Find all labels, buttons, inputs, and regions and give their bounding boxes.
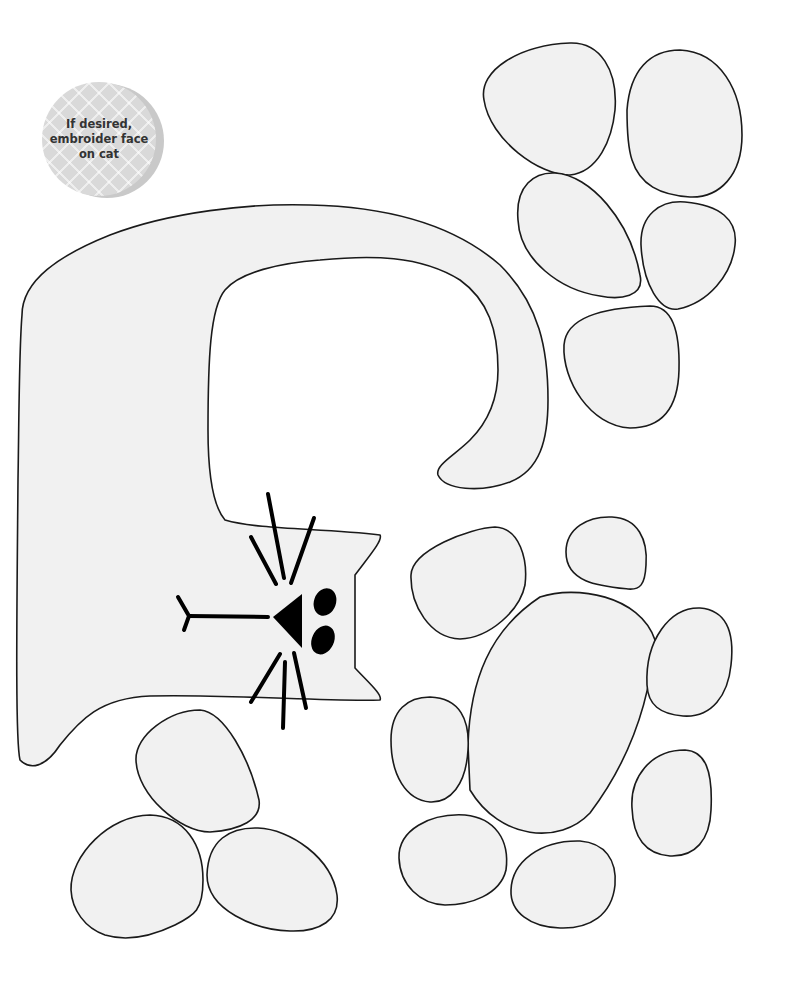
- whisker-bottom-2: [283, 662, 285, 728]
- mouth-line: [189, 616, 268, 617]
- paw-bottom-toe-2: [566, 517, 646, 589]
- paw-left-toe-2: [71, 815, 203, 938]
- paw-left-toe-3: [207, 828, 337, 931]
- paw-bottom-toe-7: [511, 841, 615, 928]
- badge-face: If desired, embroider face on cat: [42, 82, 156, 196]
- badge-line-1: If desired,: [49, 117, 149, 132]
- paw-bottom-toe-1: [411, 527, 526, 639]
- badge-line-2: embroider face: [49, 132, 149, 147]
- cat-body-piece: [17, 205, 548, 766]
- badge-line-3: on cat: [49, 147, 149, 162]
- paw-bottom-center-pad: [468, 592, 655, 833]
- paw-bottom-toe-5: [632, 750, 711, 856]
- paw-bottom-toe-3: [647, 608, 732, 716]
- paw-top-toe-3: [518, 173, 641, 298]
- badge-text: If desired, embroider face on cat: [49, 117, 149, 162]
- note-badge: If desired, embroider face on cat: [42, 82, 160, 200]
- paw-top-pad: [564, 306, 679, 428]
- paw-bottom-toe-4: [391, 697, 468, 802]
- paw-top-toe-2: [627, 50, 742, 197]
- paw-bottom-toe-6: [399, 815, 507, 905]
- paw-top-toe-1: [483, 43, 615, 175]
- paw-left-toe-1: [136, 710, 259, 832]
- paw-top-toe-4: [641, 202, 735, 309]
